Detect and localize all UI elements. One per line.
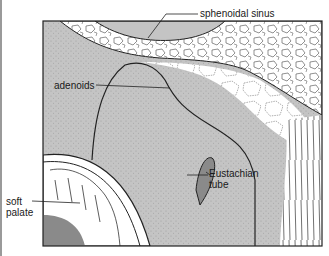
label-soft-palate: soft palate — [6, 196, 33, 218]
label-eustachian-line2: tube — [209, 179, 258, 190]
label-eustachian-tube: Eustachian tube — [209, 168, 258, 190]
label-eustachian-line1: Eustachian — [209, 168, 258, 179]
label-soft-palate-line2: palate — [6, 207, 33, 218]
anatomy-illustration — [0, 0, 329, 256]
label-sphenoidal-sinus: sphenoidal sinus — [200, 8, 275, 19]
label-soft-palate-line1: soft — [6, 196, 33, 207]
label-adenoids: adenoids — [54, 80, 95, 91]
